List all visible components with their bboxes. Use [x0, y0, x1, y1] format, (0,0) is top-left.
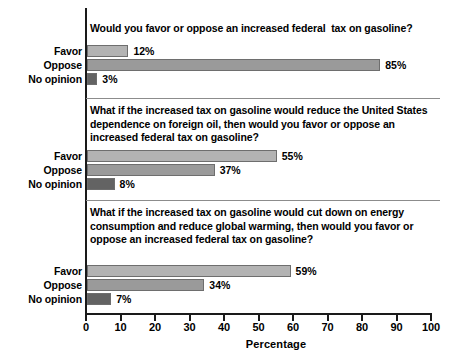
survey-bar-chart: 0102030405060708090100 Percentage Would … — [0, 0, 458, 360]
section-divider — [86, 200, 440, 201]
x-axis-tick-label: 90 — [391, 321, 403, 333]
category-label: No opinion — [0, 73, 82, 85]
bar-value-label: 12% — [133, 45, 154, 58]
bar-favor — [87, 150, 277, 162]
bar-value-label: 85% — [385, 59, 406, 72]
x-axis-tick-label: 50 — [253, 321, 265, 333]
question-text: Would you favor or oppose an increased f… — [90, 22, 438, 36]
category-label: Favor — [0, 150, 82, 162]
bar-favor — [87, 45, 128, 57]
category-label: No opinion — [0, 178, 82, 190]
x-axis-title: Percentage — [0, 338, 458, 350]
category-label: Oppose — [0, 164, 82, 176]
bar-value-label: 37% — [220, 164, 241, 177]
bar-value-label: 59% — [296, 265, 317, 278]
section-divider — [86, 98, 440, 99]
x-axis-tick-label: 10 — [115, 321, 127, 333]
bar-row: Oppose34% — [0, 279, 458, 291]
bar-value-label: 3% — [102, 73, 117, 86]
category-label: Oppose — [0, 59, 82, 71]
bar-value-label: 34% — [209, 279, 230, 292]
bar-value-label: 8% — [120, 178, 135, 191]
category-label: Favor — [0, 45, 82, 57]
x-axis-tick-label: 70 — [322, 321, 334, 333]
x-axis-title-text: Percentage — [246, 338, 306, 350]
bar-no-opinion — [87, 178, 115, 190]
x-axis-tick-label: 60 — [287, 321, 299, 333]
bar-value-label: 55% — [282, 150, 303, 163]
category-label: Oppose — [0, 279, 82, 291]
x-axis-tick-label: 30 — [184, 321, 196, 333]
x-axis-tick-label: 80 — [356, 321, 368, 333]
x-axis-tick-label: 20 — [149, 321, 161, 333]
bar-row: Favor12% — [0, 45, 458, 57]
bar-favor — [87, 265, 291, 277]
bar-oppose — [87, 59, 380, 71]
bar-row: Oppose85% — [0, 59, 458, 71]
question-text: What if the increased tax on gasoline wo… — [90, 104, 438, 145]
bar-no-opinion — [87, 73, 97, 85]
bar-row: Oppose37% — [0, 164, 458, 176]
bar-row: No opinion7% — [0, 293, 458, 305]
bar-row: Favor55% — [0, 150, 458, 162]
category-label: No opinion — [0, 293, 82, 305]
x-axis-tick-label: 40 — [218, 321, 230, 333]
bar-row: No opinion3% — [0, 73, 458, 85]
x-axis-tick-label: 0 — [83, 321, 89, 333]
category-label: Favor — [0, 265, 82, 277]
question-text: What if the increased tax on gasoline wo… — [90, 206, 438, 247]
bar-value-label: 7% — [116, 293, 131, 306]
bar-oppose — [87, 164, 215, 176]
bar-row: No opinion8% — [0, 178, 458, 190]
x-axis-tick-label: 100 — [422, 321, 440, 333]
bar-oppose — [87, 279, 204, 291]
bar-no-opinion — [87, 293, 111, 305]
bar-row: Favor59% — [0, 265, 458, 277]
